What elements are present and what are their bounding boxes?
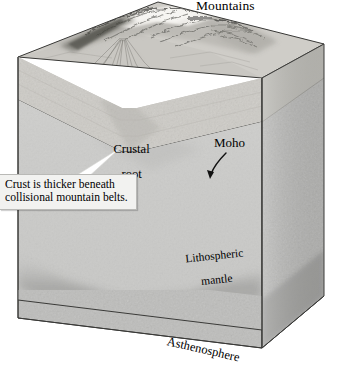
callout-box: Crust is thicker beneath collisional mou…: [0, 174, 137, 210]
callout-text: Crust is thicker beneath collisional mou…: [5, 178, 132, 205]
figure-container: Mountains Crustal root Moho Lithospheric…: [0, 0, 340, 384]
right-side-face: [255, 40, 335, 360]
